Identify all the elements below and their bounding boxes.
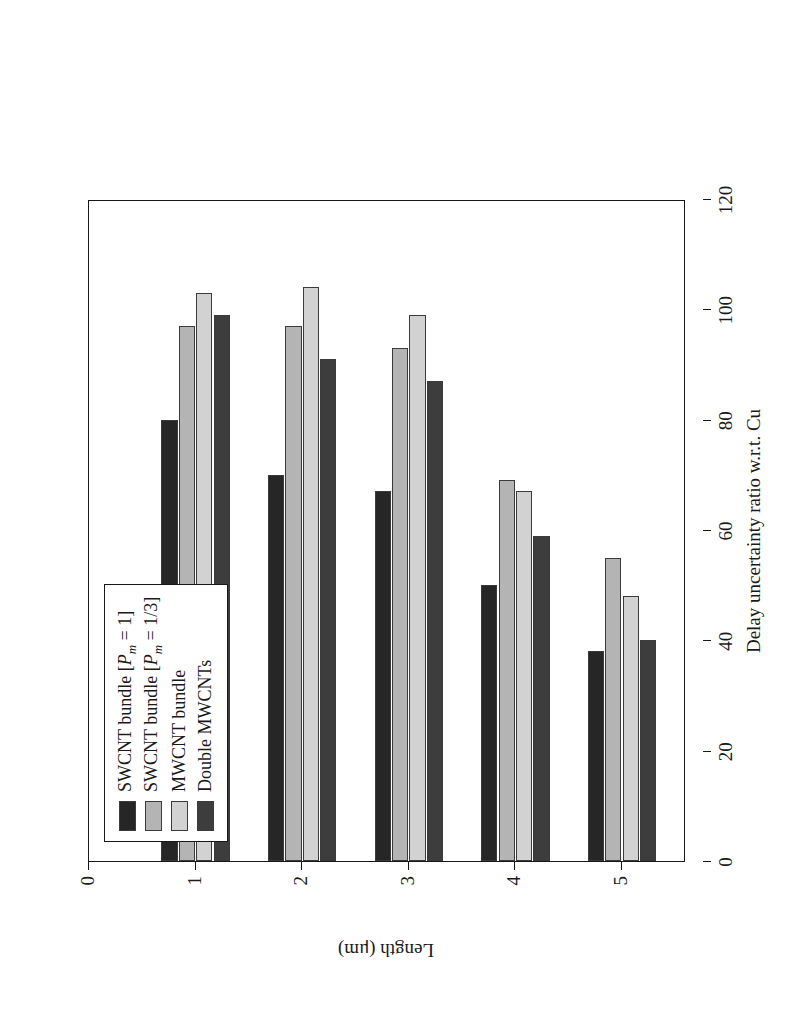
y-axis-tick-label: 0 [715, 857, 737, 867]
y-axis-tick [703, 309, 711, 310]
bar-group [587, 201, 657, 861]
bar-group [267, 201, 337, 861]
bar [320, 358, 336, 860]
bar [533, 535, 549, 860]
bar-row [375, 201, 391, 861]
bar-row [623, 201, 639, 861]
y-axis-tick [703, 530, 711, 531]
x-axis-tick [621, 862, 622, 870]
legend-swatch-icon [119, 801, 136, 831]
bar [640, 640, 656, 861]
y-axis-tick-label: 60 [715, 521, 737, 540]
x-axis-tick-label: 0 [77, 876, 99, 908]
figure-page: 020406080100120 Delay uncertainty ratio … [0, 0, 800, 1027]
bar [427, 381, 443, 861]
bar [409, 314, 425, 860]
bar-row [499, 201, 515, 861]
bar-row [320, 201, 336, 861]
bar-row [533, 201, 549, 861]
x-axis-tick [88, 862, 89, 870]
bar-row [588, 201, 604, 861]
legend-swatch-icon [171, 801, 188, 831]
legend-swatch-icon [197, 801, 214, 831]
bar-group [374, 201, 444, 861]
x-axis-tick-label: 5 [610, 876, 632, 908]
bar [605, 557, 621, 860]
y-axis-tick-label: 20 [715, 742, 737, 761]
legend-item-label: Double MWCNTs [195, 659, 216, 791]
bar [375, 491, 391, 861]
legend-item[interactable]: Double MWCNTs [192, 596, 218, 830]
bar [392, 347, 408, 860]
bar-row [409, 201, 425, 861]
legend-item-label: SWCNT bundle [Pm = 1/3] [141, 596, 166, 791]
legend-item-label: MWCNT bundle [169, 669, 190, 791]
y-axis-title: Delay uncertainty ratio w.r.t. Cu [743, 200, 765, 862]
bar-group [481, 201, 551, 861]
bar-row [427, 201, 443, 861]
y-axis-tick [703, 640, 711, 641]
bar-row [640, 201, 656, 861]
y-axis-tick [703, 861, 711, 862]
x-axis-tick [195, 862, 196, 870]
legend-swatch-icon [145, 801, 162, 831]
bar [499, 480, 515, 861]
bar-row [268, 201, 284, 861]
x-axis-tick [514, 862, 515, 870]
bar [623, 596, 639, 861]
y-axis-tick-label: 120 [715, 185, 737, 214]
y-axis-tick [703, 199, 711, 200]
x-axis-tick-label: 2 [290, 876, 312, 908]
bar [303, 287, 319, 861]
x-axis-tick [408, 862, 409, 870]
legend: SWCNT bundle [Pm = 1]SWCNT bundle [Pm = … [104, 583, 228, 841]
bar-row [481, 201, 497, 861]
bar-row [392, 201, 408, 861]
bar [481, 585, 497, 861]
legend-item[interactable]: SWCNT bundle [Pm = 1] [114, 596, 140, 830]
bar [285, 325, 301, 860]
legend-item[interactable]: SWCNT bundle [Pm = 1/3] [140, 596, 166, 830]
x-axis-tick-label: 1 [184, 876, 206, 908]
bar-row [605, 201, 621, 861]
x-axis-tick-label: 4 [503, 876, 525, 908]
y-axis-tick-label: 80 [715, 411, 737, 430]
x-axis-tick-label: 3 [397, 876, 419, 908]
bar-row [285, 201, 301, 861]
bar [588, 651, 604, 861]
bar-row [303, 201, 319, 861]
bar [268, 474, 284, 860]
legend-item[interactable]: MWCNT bundle [166, 596, 192, 830]
y-axis-tick-label: 40 [715, 631, 737, 650]
y-axis-tick [703, 750, 711, 751]
x-axis-tick [301, 862, 302, 870]
bar-row [516, 201, 532, 861]
rotated-chart-frame: 020406080100120 Delay uncertainty ratio … [70, 74, 730, 954]
x-axis-title: Length (μm) [55, 939, 717, 961]
legend-item-label: SWCNT bundle [Pm = 1] [115, 610, 140, 791]
bar [516, 491, 532, 861]
y-axis-tick-label: 100 [715, 296, 737, 325]
y-axis-tick [703, 419, 711, 420]
